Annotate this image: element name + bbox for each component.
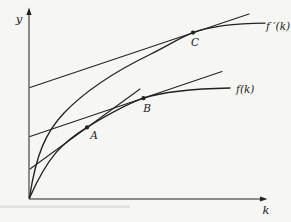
point-c-marker	[191, 30, 195, 34]
curve-f-prime-k-label: f ′(k)	[265, 20, 290, 32]
tangent-line-b	[30, 72, 222, 137]
point-b-marker	[141, 96, 145, 100]
scan-artifact-line	[0, 206, 130, 208]
figure-container: y k f(k) f ′(k) A B C	[0, 0, 291, 222]
y-axis-label: y	[15, 12, 23, 26]
y-axis-arrowhead-icon	[26, 8, 31, 16]
x-axis-label: k	[263, 203, 270, 217]
x-axis-arrowhead-icon	[260, 196, 268, 201]
diagram-canvas: y k f(k) f ′(k) A B C	[0, 0, 291, 222]
point-b-label: B	[142, 102, 151, 114]
tangent-line-c	[30, 14, 249, 88]
curve-f-k-label: f(k)	[235, 83, 254, 95]
curve-f-k	[30, 88, 231, 198]
point-a-label: A	[89, 129, 98, 141]
point-a-marker	[85, 125, 89, 129]
point-c-label: C	[191, 36, 199, 48]
